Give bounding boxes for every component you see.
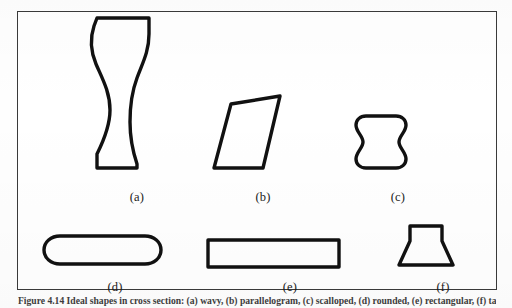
shape-label-a: (a): [114, 190, 160, 205]
shape-label-e: (e): [267, 280, 313, 295]
figure-page: (a) (b) (c) (d) (e) (f) Figure 4.14 Idea…: [0, 0, 512, 308]
figure-caption-text: Figure 4.14 Ideal shapes in cross sectio…: [18, 295, 496, 306]
wavy-column-shape: [92, 18, 149, 168]
shape-label-c: (c): [375, 190, 421, 205]
shape-label-d: (d): [92, 280, 138, 295]
shape-label-f: (f): [420, 280, 466, 295]
parallelogram-shape: [214, 96, 280, 168]
shape-label-b: (b): [240, 190, 286, 205]
rounded-pill-shape: [44, 236, 161, 264]
scalloped-square-shape: [356, 116, 406, 168]
shapes-canvas: [18, 12, 498, 291]
rectangle-shape: [208, 240, 339, 267]
figure-caption: Figure 4.14 Ideal shapes in cross sectio…: [18, 295, 496, 307]
tapered-anvil-shape: [399, 226, 453, 265]
figure-frame: (a) (b) (c) (d) (e) (f): [17, 11, 497, 290]
